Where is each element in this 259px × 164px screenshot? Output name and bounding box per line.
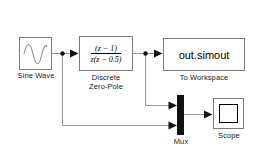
scope-label: Scope — [208, 131, 250, 140]
arrowhead-workspace-input — [154, 50, 163, 58]
sine-wave-block[interactable] — [19, 37, 52, 70]
to-workspace-variable: out.simout — [164, 39, 244, 70]
mux-block[interactable] — [177, 95, 184, 135]
arrowhead-mux-input-2 — [169, 122, 178, 130]
transfer-function-denominator: z(z − 0.5) — [91, 55, 122, 64]
transfer-function: (z − 1) z(z − 0.5) — [80, 37, 132, 70]
transfer-function-numerator: (z − 1) — [95, 44, 117, 53]
to-workspace-block[interactable]: out.simout — [163, 38, 245, 71]
scope-block[interactable] — [213, 98, 244, 129]
arrowhead-mux-input-1 — [169, 102, 178, 110]
arrowhead-zeropole-input — [70, 50, 79, 58]
discrete-zero-pole-block[interactable]: (z − 1) z(z − 0.5) — [79, 36, 133, 71]
arrowhead-scope-input — [204, 111, 213, 119]
mux-label: Mux — [162, 137, 200, 146]
discrete-zero-pole-label: Discrete Zero-Pole — [74, 73, 138, 91]
scope-screen-icon — [219, 104, 238, 123]
junction-dot-sine — [60, 51, 64, 55]
sine-wave-label: Sine Wave — [4, 71, 68, 80]
sine-wave-icon — [20, 38, 51, 69]
block-diagram-canvas: Sine Wave (z − 1) z(z − 0.5) Discrete Ze… — [0, 0, 259, 164]
to-workspace-label: To Workspace — [163, 73, 245, 82]
junction-dot-zeropole — [143, 51, 147, 55]
